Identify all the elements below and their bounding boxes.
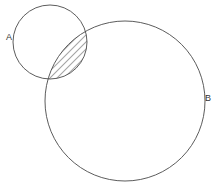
intersection-hatch [45,21,205,181]
set-label-b: B [205,93,211,103]
venn-diagram: A B [0,0,217,191]
intersection-region [45,21,205,181]
set-label-a: A [6,32,12,42]
